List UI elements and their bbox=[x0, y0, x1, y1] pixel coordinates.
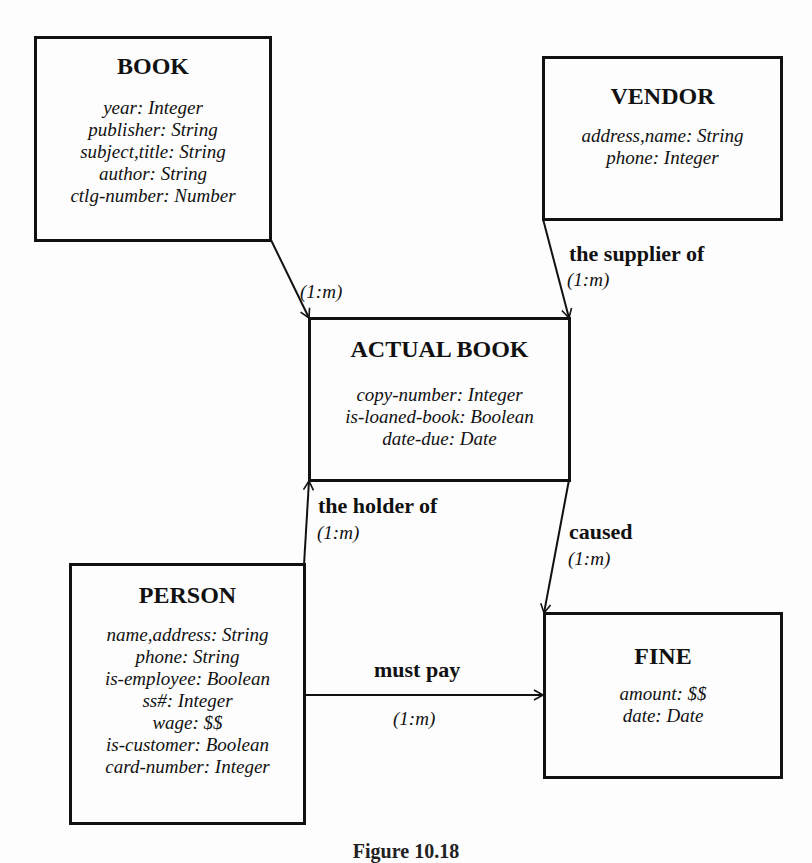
attribute: publisher: String bbox=[37, 119, 269, 141]
attribute: card-number: Integer bbox=[72, 756, 303, 778]
attribute: date-due: Date bbox=[311, 428, 568, 450]
attribute: copy-number: Integer bbox=[311, 384, 568, 406]
attribute: address,name: String bbox=[545, 125, 780, 147]
entity-title: ACTUAL BOOK bbox=[311, 336, 568, 362]
attribute: amount: $$ bbox=[546, 683, 780, 705]
relationship-label-must-pay: must pay bbox=[374, 657, 460, 683]
attribute-list: copy-number: Integer is-loaned-book: Boo… bbox=[311, 384, 568, 450]
arrow-vendor-to-actual-book bbox=[543, 219, 569, 318]
attribute-list: year: Integer publisher: String subject,… bbox=[37, 97, 269, 207]
attribute: name,address: String bbox=[72, 624, 303, 646]
entity-person: PERSON name,address: String phone: Strin… bbox=[69, 563, 306, 825]
relationship-label-caused: caused bbox=[569, 519, 633, 545]
cardinality-book-actual-book: (1:m) bbox=[300, 281, 342, 303]
attribute: ctlg-number: Number bbox=[37, 185, 269, 207]
entity-actual-book: ACTUAL BOOK copy-number: Integer is-loan… bbox=[308, 317, 571, 482]
attribute: phone: String bbox=[72, 646, 303, 668]
attribute: year: Integer bbox=[37, 97, 269, 119]
attribute-list: name,address: String phone: String is-em… bbox=[72, 624, 303, 778]
attribute: ss#: Integer bbox=[72, 690, 303, 712]
entity-book: BOOK year: Integer publisher: String sub… bbox=[34, 36, 272, 242]
arrow-book-to-actual-book bbox=[271, 240, 309, 318]
arrow-actual-book-to-fine bbox=[544, 480, 569, 613]
entity-title: BOOK bbox=[37, 53, 269, 79]
attribute: is-employee: Boolean bbox=[72, 668, 303, 690]
entity-title: FINE bbox=[546, 643, 780, 669]
cardinality-actual-book-fine: (1:m) bbox=[568, 548, 610, 570]
attribute: wage: $$ bbox=[72, 712, 303, 734]
cardinality-vendor-actual-book: (1:m) bbox=[567, 269, 609, 291]
attribute: is-loaned-book: Boolean bbox=[311, 406, 568, 428]
arrow-person-to-actual-book bbox=[304, 481, 309, 565]
entity-fine: FINE amount: $$ date: Date bbox=[543, 612, 783, 779]
attribute-list: address,name: String phone: Integer bbox=[545, 125, 780, 169]
attribute: phone: Integer bbox=[545, 147, 780, 169]
attribute: author: String bbox=[37, 163, 269, 185]
attribute-list: amount: $$ date: Date bbox=[546, 683, 780, 727]
cardinality-person-actual-book: (1:m) bbox=[317, 522, 359, 544]
figure-caption: Figure 10.18 bbox=[0, 840, 812, 863]
attribute: date: Date bbox=[546, 705, 780, 727]
cardinality-person-fine: (1:m) bbox=[393, 708, 435, 730]
relationship-label-holder: the holder of bbox=[318, 493, 437, 519]
attribute: is-customer: Boolean bbox=[72, 734, 303, 756]
relationship-label-supplier: the supplier of bbox=[569, 241, 704, 267]
entity-vendor: VENDOR address,name: String phone: Integ… bbox=[542, 56, 783, 221]
entity-title: PERSON bbox=[72, 582, 303, 608]
attribute: subject,title: String bbox=[37, 141, 269, 163]
entity-title: VENDOR bbox=[545, 83, 780, 109]
